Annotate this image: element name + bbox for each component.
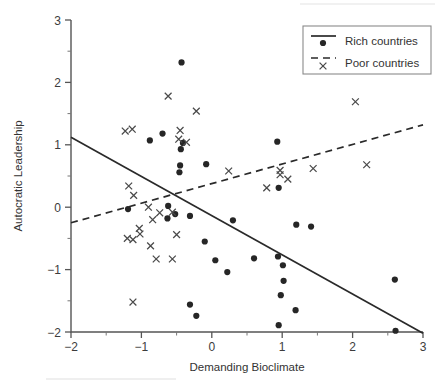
y-tick-label: 2 bbox=[54, 76, 61, 90]
data-point-rich bbox=[176, 169, 182, 175]
data-point-rich bbox=[293, 222, 299, 228]
data-point-rich bbox=[178, 59, 184, 65]
x-tick-label: −1 bbox=[135, 340, 149, 354]
x-tick-label: −2 bbox=[64, 340, 78, 354]
legend-label: Rich countries bbox=[345, 35, 418, 47]
data-point-rich bbox=[392, 276, 398, 282]
data-point-rich bbox=[224, 269, 230, 275]
data-point-rich bbox=[165, 203, 171, 209]
data-point-rich bbox=[147, 137, 153, 143]
legend-label: Poor countries bbox=[345, 57, 419, 69]
data-point-rich bbox=[203, 161, 209, 167]
chart-legend[interactable]: Rich countriesPoor countries bbox=[303, 26, 431, 74]
legend-marker-dot bbox=[320, 40, 326, 46]
data-point-rich bbox=[193, 313, 199, 319]
y-tick-label: −1 bbox=[47, 263, 61, 277]
y-tick-label: 3 bbox=[54, 14, 61, 28]
data-point-rich bbox=[251, 255, 257, 261]
data-point-rich bbox=[202, 238, 208, 244]
data-point-rich bbox=[125, 206, 131, 212]
data-point-rich bbox=[308, 223, 314, 229]
data-point-rich bbox=[276, 322, 282, 328]
x-tick-label: 3 bbox=[420, 340, 427, 354]
data-point-rich bbox=[212, 257, 218, 263]
data-point-rich bbox=[178, 146, 184, 152]
data-point-rich bbox=[281, 278, 287, 284]
data-point-rich bbox=[292, 307, 298, 313]
data-point-rich bbox=[392, 328, 398, 334]
y-axis-title: Autocratic Leadership bbox=[12, 120, 24, 231]
y-tick-label: 1 bbox=[54, 138, 61, 152]
data-point-rich bbox=[187, 301, 193, 307]
scan-artifact-bottom bbox=[46, 378, 176, 380]
data-point-rich bbox=[276, 185, 282, 191]
y-tick-label: 0 bbox=[54, 201, 61, 215]
x-tick-label: 0 bbox=[208, 340, 215, 354]
data-point-rich bbox=[230, 217, 236, 223]
chart-canvas: −2−10123−2−10123Demanding BioclimateAuto… bbox=[0, 0, 440, 389]
data-point-rich bbox=[274, 139, 280, 145]
scan-artifact-top bbox=[300, 3, 435, 5]
x-tick-label: 1 bbox=[279, 340, 286, 354]
data-point-rich bbox=[164, 215, 170, 221]
scatter-plot-figure: −2−10123−2−10123Demanding BioclimateAuto… bbox=[0, 0, 440, 389]
x-tick-label: 2 bbox=[349, 340, 356, 354]
data-point-rich bbox=[159, 130, 165, 136]
y-tick-label: −2 bbox=[47, 326, 61, 340]
data-point-rich bbox=[278, 292, 284, 298]
x-axis-title: Demanding Bioclimate bbox=[189, 361, 304, 373]
data-point-rich bbox=[177, 162, 183, 168]
data-point-rich bbox=[280, 262, 286, 268]
data-point-rich bbox=[275, 253, 281, 259]
data-point-rich bbox=[187, 213, 193, 219]
